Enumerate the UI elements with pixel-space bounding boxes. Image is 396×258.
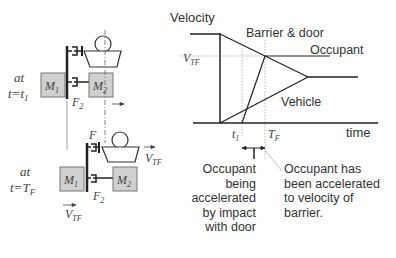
barrier-door-label: Barrier & door (246, 26, 324, 40)
t1-tick-label: t1 (232, 127, 239, 143)
annotation-pointer (265, 150, 282, 171)
annotation-line: with door (186, 220, 256, 235)
bottom-occupant-velocity-arrow (144, 146, 155, 149)
annotation-occupant-accelerated: Occupant has been accelerated to velocit… (284, 162, 396, 220)
annotation-line: accelerated (186, 191, 256, 206)
occupant-acceleration-curve (242, 56, 265, 123)
bottom-occupant-head (112, 132, 128, 148)
bottom-force2-label: F2 (92, 189, 104, 205)
mechanism-bottom: at t=TF M1 M2 F F2 VTF (10, 128, 162, 223)
annotation-occupant-being-accelerated: Occupant being accelerated by impact wit… (186, 162, 256, 235)
top-motion-arrow (112, 103, 124, 106)
top-force2-label: F2 (71, 95, 83, 111)
tf-tick-label: TF (268, 127, 280, 143)
bottom-vehicle-velocity-label: VTF (65, 207, 82, 223)
velocity-time-chart: Velocity time Barrier & door Occupant Ve… (170, 10, 378, 171)
top-occupant-damper (68, 46, 82, 56)
top-occupant-head (95, 36, 111, 52)
bottom-force-label: F (88, 128, 97, 142)
bottom-occupant-velocity-label: VTF (145, 151, 162, 167)
bottom-at-label: at (20, 164, 31, 179)
occupant-label: Occupant (310, 43, 364, 57)
vtf-tick-label: VTF (183, 51, 200, 67)
bottom-occupant-damper (88, 142, 99, 153)
top-vehicle-damper (68, 78, 89, 86)
annotation-line: by impact (186, 206, 256, 221)
vehicle-label: Vehicle (281, 95, 321, 109)
x-axis-label: time (346, 125, 371, 140)
bottom-time-label: t=TF (10, 180, 36, 197)
annotation-line: Occupant (186, 162, 256, 177)
mechanism-top: at t=t1 M1 M2 F2 (8, 36, 124, 111)
top-occupant-torso (84, 51, 121, 67)
interval-marker (242, 147, 265, 160)
y-axis-label: Velocity (170, 10, 215, 25)
annotation-line: to velocity of (284, 191, 396, 206)
top-at-label: at (14, 70, 25, 85)
annotation-line: been accelerated (284, 177, 396, 192)
top-time-label: t=t1 (8, 86, 29, 103)
annotation-line: being (186, 177, 256, 192)
bottom-vehicle-damper (88, 175, 113, 182)
annotation-line: Occupant has (284, 162, 396, 177)
annotation-line: barrier. (284, 206, 396, 221)
bottom-occupant-torso (102, 147, 139, 162)
